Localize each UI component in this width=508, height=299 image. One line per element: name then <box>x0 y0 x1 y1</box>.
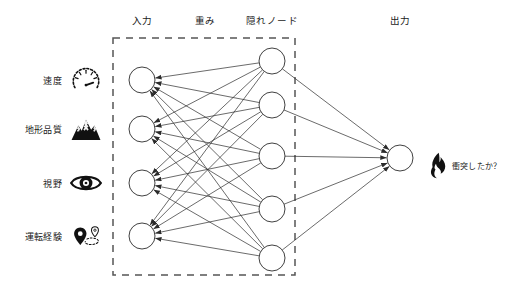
hidden-node-5 <box>259 245 285 271</box>
speedometer-icon <box>69 63 103 97</box>
column-header-weights: 重み <box>195 13 216 27</box>
column-header-input: 入力 <box>132 13 153 27</box>
hidden-node-3 <box>259 143 285 169</box>
hidden-nodes <box>259 48 285 271</box>
hidden-node-4 <box>259 196 285 222</box>
output-label-collision: 衝突したか？ <box>452 160 501 171</box>
input-label-experience: 運転経験 <box>0 230 62 243</box>
route-pin-icon <box>71 219 105 253</box>
flame-icon <box>425 152 451 178</box>
input-node-2 <box>129 116 155 142</box>
output-nodes <box>387 145 413 171</box>
input-label-visibility: 視野 <box>0 177 62 190</box>
input-label-speed: 速度 <box>0 74 62 87</box>
hidden-node-1 <box>259 48 285 74</box>
input-to-hidden-edges <box>150 63 264 256</box>
column-header-hidden: 隠れノード <box>246 13 299 27</box>
output-node <box>387 145 413 171</box>
column-header-output: 出力 <box>390 13 411 27</box>
hidden-node-2 <box>259 92 285 118</box>
mountain-icon <box>69 112 103 146</box>
diagram-canvas: 入力 重み 隠れノード 出力 速度 地形品質 視野 運転経験 <box>0 0 508 299</box>
input-nodes <box>129 67 155 249</box>
input-label-terrain: 地形品質 <box>0 123 62 136</box>
input-node-4 <box>129 223 155 249</box>
hidden-to-output-edges <box>282 69 389 250</box>
network-graphic <box>0 0 508 299</box>
eye-icon <box>69 166 103 200</box>
input-node-3 <box>129 170 155 196</box>
input-node-1 <box>129 67 155 93</box>
